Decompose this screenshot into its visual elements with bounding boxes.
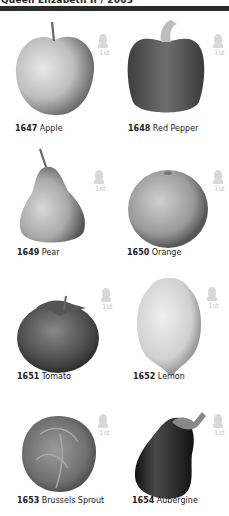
queen-head-icon: 1st (213, 170, 223, 196)
stamp-label: 1651 Tomato (17, 372, 71, 381)
stamp-label: 1650 Orange (127, 248, 181, 257)
queen-head-icon: 1st (101, 288, 111, 314)
pear-icon (16, 145, 90, 247)
stamp-1648: 1st 1648 Red Pepper (115, 12, 229, 136)
orange-icon (127, 169, 209, 249)
stamp-1652: 1st 1652 Lemon (115, 260, 229, 384)
stamp-label: 1653 Brussels Sprout (17, 496, 104, 505)
aubergine-icon (132, 408, 208, 500)
queen-head-icon: 1st (213, 414, 223, 440)
queen-head-icon: 1st (98, 414, 108, 440)
tomato-icon (16, 294, 104, 374)
stamp-1647: 1st 1647 Apple (0, 12, 114, 136)
stamp-label: 1647 Apple (15, 124, 63, 133)
pepper-icon (125, 16, 207, 118)
queen-head-icon: 1st (213, 34, 223, 60)
queen-head-icon: 1st (207, 287, 217, 313)
stamp-1651: 1st 1651 Tomato (0, 260, 114, 384)
stamp-1654: 1st 1654 Aubergine (115, 384, 229, 508)
header-bar (0, 6, 229, 11)
catalogue-header-title: Queen Elizabeth II / 2003 (1, 0, 133, 5)
queen-head-icon: 1st (98, 34, 108, 60)
lemon-icon (134, 276, 204, 376)
stamp-label: 1649 Pear (17, 248, 59, 257)
stamp-1653: 1st 1653 Brussels Sprout (0, 384, 114, 508)
apple-icon (14, 18, 96, 118)
stamp-label: 1652 Lemon (133, 372, 185, 381)
stamp-1649: 1st 1649 Pear (0, 137, 114, 261)
queen-head-icon: 1st (94, 170, 104, 196)
stamp-label: 1654 Aubergine (132, 496, 198, 505)
sprout-icon (20, 414, 98, 494)
stamp-label: 1648 Red Pepper (128, 124, 198, 133)
stamp-1650: 1st 1650 Orange (115, 137, 229, 261)
